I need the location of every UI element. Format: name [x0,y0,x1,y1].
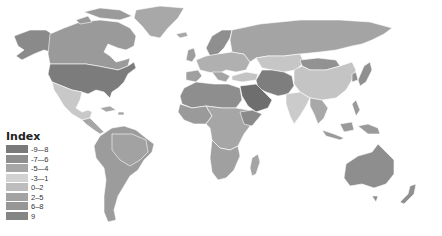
world-map [0,0,442,236]
legend-label: -3–-1 [31,174,49,183]
legend-entry: 6–8 [6,202,49,212]
legend-label: -9–-8 [31,145,49,154]
legend-label: -5–-4 [31,164,49,173]
legend-label: 6–8 [31,202,44,211]
region-north-africa [180,82,242,108]
legend: Index -9–-8 -7–-6 -5–-4 -3–-1 0–2 2–5 6–… [6,130,49,221]
legend-entry: 2–5 [6,193,49,203]
legend-swatch [6,155,28,164]
legend-entry: -9–-8 [6,145,49,155]
legend-swatch [6,174,28,183]
legend-swatch [6,183,28,192]
legend-entry: 9 [6,212,49,222]
legend-label: -7–-6 [31,155,49,164]
legend-swatch [6,202,28,211]
legend-entry: -5–-4 [6,164,49,174]
legend-label: 9 [31,212,35,221]
legend-swatch [6,164,28,173]
legend-label: 0–2 [31,183,44,192]
legend-label: 2–5 [31,193,44,202]
legend-swatch [6,212,28,221]
legend-title: Index [6,130,49,143]
legend-entry: 0–2 [6,183,49,193]
legend-entry: -3–-1 [6,174,49,184]
legend-entry: -7–-6 [6,155,49,165]
legend-swatch [6,145,28,154]
legend-swatch [6,193,28,202]
